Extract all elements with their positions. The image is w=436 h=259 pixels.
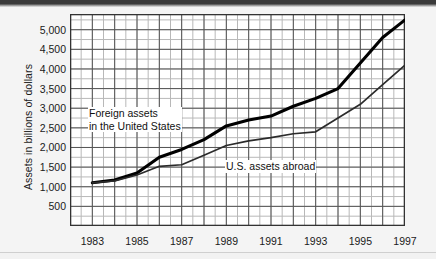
annotation-foreign-line2: in the United States bbox=[89, 120, 181, 133]
annotation-us-assets-abroad: U.S. assets abroad bbox=[225, 160, 316, 173]
x-tick-label: 1995 bbox=[340, 235, 380, 247]
x-tick-label: 1985 bbox=[117, 235, 157, 247]
x-tick-label: 1997 bbox=[385, 235, 425, 247]
x-tick-label: 1989 bbox=[206, 235, 246, 247]
x-tick-label: 1993 bbox=[296, 235, 336, 247]
y-tick-label: 3,500 bbox=[14, 84, 66, 94]
y-tick-label: 5,000 bbox=[14, 25, 66, 35]
x-tick-label: 1987 bbox=[162, 235, 202, 247]
series-line-foreign-assets bbox=[92, 20, 405, 183]
y-axis-tick-labels: 5,0004,5004,0003,5003,0002,5002,0001,500… bbox=[8, 14, 66, 226]
y-tick-label: 2,000 bbox=[14, 142, 66, 152]
annotation-foreign-assets: Foreign assets in the United States bbox=[88, 107, 182, 132]
y-tick-label: 500 bbox=[14, 201, 66, 211]
x-tick-label: 1991 bbox=[251, 235, 291, 247]
y-tick-label: 2,500 bbox=[14, 123, 66, 133]
y-tick-label: 4,500 bbox=[14, 44, 66, 54]
annotation-foreign-line1: Foreign assets bbox=[89, 107, 181, 120]
y-tick-label: 4,000 bbox=[14, 64, 66, 74]
y-tick-label: 1,500 bbox=[14, 162, 66, 172]
top-decoration-band bbox=[0, 0, 436, 7]
chart-figure: Assets in billions of dollars 5,0004,500… bbox=[0, 7, 436, 252]
annotation-usa-line1: U.S. assets abroad bbox=[226, 160, 315, 173]
x-axis-tick-labels: 19831985198719891991199319951997 bbox=[70, 233, 405, 249]
y-tick-label: 1,000 bbox=[14, 182, 66, 192]
plot-area: Foreign assets in the United States U.S.… bbox=[70, 14, 405, 226]
y-tick-label: 3,000 bbox=[14, 103, 66, 113]
bottom-divider bbox=[0, 252, 436, 253]
x-tick-label: 1983 bbox=[72, 235, 112, 247]
